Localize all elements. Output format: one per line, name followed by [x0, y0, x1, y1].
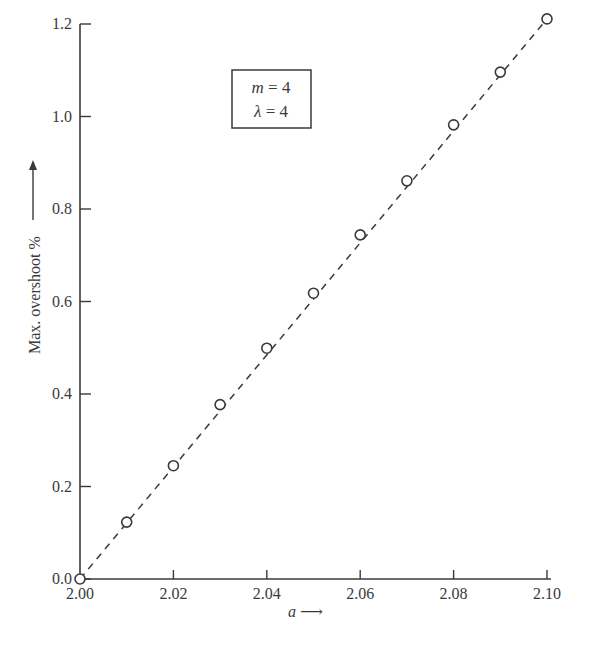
x-axis-variable: a [288, 603, 296, 620]
data-point-marker [542, 14, 552, 24]
data-point-marker [495, 67, 505, 77]
data-point-marker [168, 461, 178, 471]
y-tick-label: 0.4 [52, 385, 72, 402]
data-point-marker [309, 288, 319, 298]
y-tick-label: 0.2 [52, 478, 72, 495]
legend-line-lambda: λ = 4 [253, 102, 288, 121]
data-point-marker [262, 343, 272, 353]
y-axis-text: Max. overshoot % [26, 236, 43, 354]
legend: m = 4 λ = 4 [232, 70, 311, 128]
chart: 0.00.20.40.60.81.01.22.002.022.042.062.0… [0, 0, 589, 645]
data-point-marker [355, 230, 365, 240]
data-point-marker [402, 176, 412, 186]
y-axis-label: Max. overshoot % [26, 160, 43, 354]
data-point-marker [122, 517, 132, 527]
y-tick-label: 1.0 [52, 108, 72, 125]
data-series [75, 14, 552, 584]
legend-line-m: m = 4 [252, 78, 291, 97]
y-tick-label: 1.2 [52, 15, 72, 32]
y-tick-label: 0.8 [52, 200, 72, 217]
x-tick-label: 2.00 [66, 585, 94, 602]
x-tick-label: 2.10 [533, 585, 561, 602]
x-axis-label: a ⟶ [288, 603, 323, 620]
x-tick-label: 2.04 [253, 585, 281, 602]
y-axis-arrowhead [29, 160, 37, 170]
x-axis-arrow-icon: ⟶ [300, 603, 323, 620]
x-tick-label: 2.06 [346, 585, 374, 602]
x-tick-label: 2.08 [440, 585, 468, 602]
x-tick-label: 2.02 [159, 585, 187, 602]
data-point-marker [449, 120, 459, 130]
data-point-marker [75, 574, 85, 584]
data-point-marker [215, 400, 225, 410]
y-tick-label: 0.6 [52, 293, 72, 310]
